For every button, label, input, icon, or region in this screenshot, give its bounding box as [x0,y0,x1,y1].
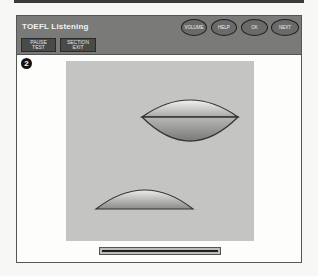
app-title: TOEFL Listening [22,22,89,31]
top-strip [14,0,304,3]
section-exit-button[interactable]: SECTION EXIT [60,38,96,52]
header-bar: TOEFL Listening PAUSE TEST SECTION EXIT … [17,16,301,55]
help-button[interactable]: HELP [211,19,237,36]
pause-test-button[interactable]: PAUSE TEST [21,38,56,52]
lens-diagram [66,61,254,241]
pause-test-label-2: TEST [22,45,55,51]
question-number-badge: 2 [21,58,32,69]
section-exit-label-2: EXIT [61,45,95,51]
volume-button[interactable]: VOLUME [181,19,207,36]
ok-button[interactable]: OK [241,19,268,36]
test-window: TOEFL Listening PAUSE TEST SECTION EXIT … [16,15,302,263]
diagram-panel [66,61,254,241]
next-button[interactable]: NEXT [271,19,299,36]
audio-progress-bar [99,247,221,255]
progress-fill [102,250,218,252]
split-lens-shape [142,100,238,141]
half-dome-shape [96,190,193,209]
